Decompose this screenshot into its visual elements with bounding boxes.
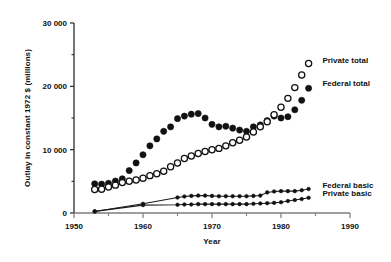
data-point	[217, 202, 221, 206]
data-point	[224, 194, 228, 198]
data-point	[216, 145, 222, 151]
data-point	[252, 202, 256, 206]
data-point	[306, 60, 312, 66]
data-point	[92, 186, 98, 192]
data-point	[307, 187, 311, 191]
series-federal-total	[92, 85, 312, 187]
x-axis-title: Year	[203, 237, 220, 246]
data-point	[209, 121, 215, 127]
data-point	[243, 134, 249, 140]
data-point	[299, 72, 305, 78]
data-point	[202, 115, 208, 121]
data-point	[202, 148, 208, 154]
chart-figure: 010 00020 00030 00019501960197019801990Y…	[0, 0, 391, 262]
data-point	[133, 160, 139, 166]
data-point	[183, 203, 187, 207]
data-point	[174, 116, 180, 122]
data-point	[231, 194, 235, 198]
data-point	[181, 155, 187, 161]
data-point	[196, 202, 200, 206]
x-tick-label: 1960	[134, 222, 152, 231]
data-point	[286, 189, 290, 193]
data-point	[203, 202, 207, 206]
data-point	[264, 119, 270, 125]
data-point	[292, 107, 298, 113]
data-point	[195, 110, 201, 116]
data-point	[272, 190, 276, 194]
data-point	[286, 199, 290, 203]
data-point	[306, 85, 312, 91]
data-point	[174, 160, 180, 166]
data-point	[279, 189, 283, 193]
data-point	[183, 195, 187, 199]
series-label-3: Private basic	[322, 189, 372, 198]
data-point	[231, 202, 235, 206]
data-point	[190, 203, 194, 207]
data-point	[147, 143, 153, 149]
y-tick-label: 10 000	[43, 146, 68, 155]
data-point	[133, 177, 139, 183]
data-point	[259, 202, 263, 206]
data-point	[257, 124, 263, 130]
data-point	[119, 180, 125, 186]
data-point	[217, 194, 221, 198]
y-tick-label: 20 000	[43, 82, 68, 91]
data-point	[237, 127, 243, 133]
x-tick-label: 1980	[272, 222, 290, 231]
data-point	[140, 175, 146, 181]
data-point	[300, 197, 304, 201]
data-point	[154, 136, 160, 142]
x-tick-label: 1970	[203, 222, 221, 231]
series-label-1: Private total	[322, 56, 368, 65]
data-point	[161, 168, 167, 174]
data-point	[112, 182, 118, 188]
data-point	[299, 97, 305, 103]
data-point	[230, 125, 236, 131]
data-point	[99, 186, 105, 192]
data-point	[272, 201, 276, 205]
data-point	[140, 152, 146, 158]
data-point	[168, 164, 174, 170]
data-point	[210, 202, 214, 206]
chart-canvas: 010 00020 00030 00019501960197019801990Y…	[0, 0, 391, 262]
data-point	[252, 194, 256, 198]
data-point	[147, 173, 153, 179]
data-point	[188, 153, 194, 159]
series-line	[95, 198, 309, 212]
series-line	[95, 189, 309, 211]
data-point	[209, 147, 215, 153]
data-point	[293, 189, 297, 193]
data-point	[105, 184, 111, 190]
data-point	[307, 196, 311, 200]
data-point	[176, 196, 180, 200]
data-point	[190, 194, 194, 198]
data-point	[223, 143, 229, 149]
y-axis-title: Outlay in constant 1972 $ (millions)	[23, 49, 32, 187]
x-tick-label: 1990	[341, 222, 359, 231]
data-point	[141, 203, 145, 207]
data-point	[224, 202, 228, 206]
series-federal-basic	[93, 187, 311, 213]
data-point	[278, 115, 284, 121]
data-point	[126, 178, 132, 184]
x-tick-label: 1950	[65, 222, 83, 231]
data-point	[154, 171, 160, 177]
data-point	[238, 202, 242, 206]
data-point	[223, 123, 229, 129]
data-point	[250, 129, 256, 135]
series-label-0: Federal total	[322, 79, 370, 88]
data-point	[195, 150, 201, 156]
series-private-basic	[93, 196, 311, 213]
data-point	[300, 188, 304, 192]
data-point	[285, 114, 291, 120]
data-point	[278, 104, 284, 110]
data-point	[188, 111, 194, 117]
data-point	[279, 200, 283, 204]
data-point	[265, 201, 269, 205]
series-private-total	[92, 60, 312, 192]
data-point	[181, 113, 187, 119]
data-point	[161, 128, 167, 134]
data-point	[230, 140, 236, 146]
data-point	[237, 137, 243, 143]
data-point	[292, 85, 298, 91]
